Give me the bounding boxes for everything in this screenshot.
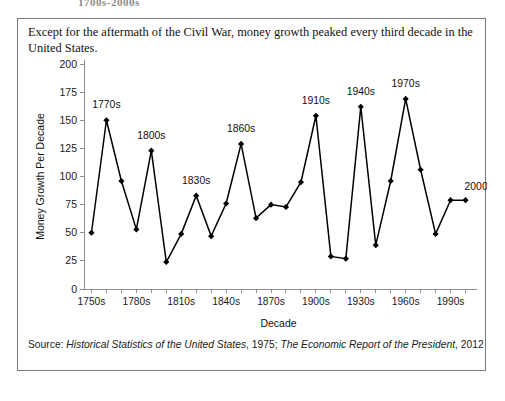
line-chart: 0255075100125150175200Money Growth Per D… [18,52,487,334]
y-axis-tick-label: 100 [59,170,77,182]
y-axis-tick-label: 75 [65,198,77,210]
source-prefix: Source: [28,339,66,350]
y-axis-tick-label: 175 [59,86,77,98]
data-point-marker [388,178,394,184]
data-point-marker [193,193,199,199]
data-point-marker [373,242,379,248]
data-point-marker [447,197,453,203]
x-axis-title: Decade [260,317,296,329]
y-axis-tick-label: 200 [59,58,77,70]
peak-annotation-label: 1830s [182,175,210,186]
x-axis-tick-label: 1780s [122,296,150,307]
data-point-marker [133,226,139,232]
data-point-marker [178,231,184,237]
data-point-marker [148,148,154,154]
y-axis-tick-label: 125 [59,142,77,154]
peak-annotation-label: 1770s [92,99,120,110]
data-point-marker [432,231,438,237]
data-point-marker [328,253,334,259]
figure-source-note: Source: Historical Statistics of the Uni… [28,339,480,350]
y-axis-title: Money Growth Per Decade [34,113,46,240]
y-axis-tick-label: 50 [65,226,77,238]
data-point-marker [462,197,468,203]
source-work-2: The Economic Report of the President [280,339,455,350]
y-axis-tick-label: 0 [71,283,77,295]
y-axis-tick-label: 150 [59,114,77,126]
data-point-marker [208,233,214,239]
data-point-marker [343,256,349,262]
x-axis-tick-label: 1990s [437,296,465,307]
data-point-marker [118,178,124,184]
source-suffix: , 2012 [455,339,484,350]
source-middle: , 1975; [246,339,280,350]
source-work-1: Historical Statistics of the United Stat… [66,339,246,350]
figure-container: Except for the aftermath of the Civil Wa… [17,18,486,371]
data-point-marker [313,113,319,119]
peak-annotation-label: 1970s [392,78,420,89]
data-series-line [91,99,465,262]
peak-annotation-label: 1860s [227,123,255,134]
data-point-marker [223,200,229,206]
x-axis-tick-label: 1960s [392,296,420,307]
peak-annotation-label: 2000s [465,181,487,192]
peak-annotation-label: 1800s [137,130,165,141]
x-axis-tick-label: 1840s [212,296,240,307]
data-point-marker [163,259,169,265]
data-point-marker [403,96,409,102]
page-top-heading: 1700s-2000s [78,0,278,8]
y-axis-tick-label: 25 [65,254,77,266]
data-point-marker [358,104,364,110]
x-axis-tick-label: 1900s [302,296,330,307]
chart-plot-area: 0255075100125150175200Money Growth Per D… [18,52,487,334]
data-point-marker [418,167,424,173]
x-axis-tick-label: 1870s [257,296,285,307]
x-axis-tick-label: 1750s [78,296,106,307]
peak-annotation-label: 1940s [347,86,375,97]
x-axis-tick-label: 1930s [347,296,375,307]
data-point-marker [238,141,244,147]
data-point-marker [88,230,94,236]
data-point-marker [103,117,109,123]
peak-annotation-label: 1910s [302,95,330,106]
x-axis-tick-label: 1810s [167,296,195,307]
